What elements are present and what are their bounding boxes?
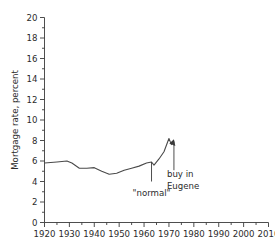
y-tick-label: 14 <box>27 74 38 84</box>
x-tick-label: 2000 <box>233 229 255 239</box>
x-tick-label: 1950 <box>108 229 130 239</box>
y-axis-title-group: Mortgage rate, percent <box>10 70 20 170</box>
y-tick-label: 8 <box>32 136 37 146</box>
y-tick-label: 12 <box>27 95 38 105</box>
x-tick-label: 1970 <box>158 229 180 239</box>
annotation-label-buy-in-eugene: Eugene <box>167 181 199 191</box>
y-tick-label: 20 <box>27 13 38 23</box>
y-tick-label: 16 <box>27 54 38 64</box>
chart-background <box>0 0 275 246</box>
y-tick-label: 6 <box>32 156 37 166</box>
y-tick-label: 2 <box>32 197 37 207</box>
x-tick-label: 1980 <box>183 229 205 239</box>
y-tick-label: 4 <box>32 177 37 187</box>
y-tick-label: 0 <box>32 218 37 228</box>
x-tick-label: 1990 <box>208 229 230 239</box>
mortgage-rate-line-chart: 02468101214161820 1920193019401950196019… <box>0 0 275 246</box>
annotation-label-buy-in-eugene: buy in <box>167 169 194 179</box>
x-tick-label: 1940 <box>83 229 105 239</box>
y-tick-label: 18 <box>27 33 38 43</box>
chart-container: 02468101214161820 1920193019401950196019… <box>0 0 275 246</box>
x-tick-label: 1960 <box>133 229 155 239</box>
x-tick-label: 1930 <box>58 229 80 239</box>
annotation-label-normal: "normal" <box>133 188 171 198</box>
x-tick-label: 1920 <box>34 229 56 239</box>
y-axis-title: Mortgage rate, percent <box>10 70 20 170</box>
y-tick-label: 10 <box>27 115 38 125</box>
x-tick-label: 2010 <box>258 229 275 239</box>
